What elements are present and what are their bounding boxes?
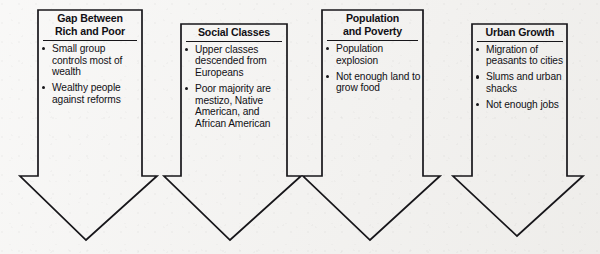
list-item: Migration of peasants to cities — [474, 44, 566, 67]
arrow-bullet-list-2: Upper classes descended from Europeans P… — [183, 44, 285, 130]
title-divider — [186, 41, 282, 42]
arrow-content-2: Social Classes Upper classes descended f… — [183, 26, 285, 129]
arrow-title-3: Population and Poverty — [324, 12, 421, 38]
title-divider — [477, 41, 563, 42]
list-item-text: Migration of peasants to cities — [486, 44, 563, 67]
list-item: Not enough jobs — [474, 99, 566, 111]
bullet-dot-icon — [185, 48, 188, 51]
bullet-dot-icon — [476, 75, 479, 78]
arrow-bullet-list-1: Small group controls most of wealth Weal… — [40, 43, 140, 105]
bullet-dot-icon — [42, 47, 45, 50]
list-item: Population explosion — [324, 43, 421, 66]
arrow-title-2: Social Classes — [183, 26, 285, 39]
arrow-title-1: Gap Between Rich and Poor — [40, 12, 140, 38]
list-item-text: Not enough land to grow food — [336, 71, 420, 94]
arrow-bullet-list-4: Migration of peasants to cities Slums an… — [474, 44, 566, 111]
arrow-content-4: Urban Growth Migration of peasants to ci… — [474, 26, 566, 111]
title-divider — [327, 40, 418, 41]
list-item-text: Not enough jobs — [486, 99, 559, 110]
arrow-title-line: and Poverty — [326, 25, 419, 38]
list-item-text: Upper classes descended from Europeans — [195, 44, 267, 78]
list-item-text: Small group controls most of wealth — [52, 43, 122, 77]
bullet-dot-icon — [185, 87, 188, 90]
arrow-content-3: Population and Poverty Population explos… — [324, 12, 421, 94]
arrow-content-1: Gap Between Rich and Poor Small group co… — [40, 12, 140, 105]
arrow-title-line: Urban Growth — [476, 26, 564, 39]
bullet-dot-icon — [326, 47, 329, 50]
list-item-text: Wealthy people against reforms — [52, 82, 121, 105]
arrow-title-line: Rich and Poor — [42, 25, 138, 38]
bullet-dot-icon — [476, 48, 479, 51]
list-item: Poor majority are mestizo, Native Americ… — [183, 83, 285, 129]
list-item: Not enough land to grow food — [324, 71, 421, 94]
list-item-text: Slums and urban shacks — [486, 71, 562, 94]
bullet-dot-icon — [326, 75, 329, 78]
arrow-title-line: Social Classes — [185, 26, 283, 39]
list-item: Wealthy people against reforms — [40, 82, 140, 105]
bullet-dot-icon — [42, 86, 45, 89]
list-item: Upper classes descended from Europeans — [183, 44, 285, 79]
bullet-dot-icon — [476, 103, 479, 106]
list-item: Small group controls most of wealth — [40, 43, 140, 78]
arrow-title-line: Population — [326, 12, 419, 25]
arrow-flow-diagram: Gap Between Rich and Poor Small group co… — [0, 0, 600, 254]
title-divider — [43, 40, 137, 41]
list-item-text: Population explosion — [336, 43, 383, 66]
arrow-bullet-list-3: Population explosion Not enough land to … — [324, 43, 421, 94]
arrow-title-4: Urban Growth — [474, 26, 566, 39]
arrow-title-line: Gap Between — [42, 12, 138, 25]
list-item: Slums and urban shacks — [474, 71, 566, 94]
list-item-text: Poor majority are mestizo, Native Americ… — [195, 83, 271, 129]
